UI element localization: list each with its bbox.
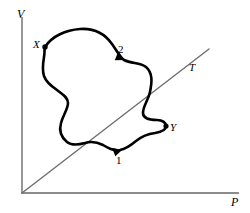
pv-cycle-figure: V P X Y T 1 2: [0, 0, 250, 213]
point-x-label: X: [33, 39, 40, 50]
isotherm-line: [22, 49, 209, 193]
figure-canvas: [0, 0, 250, 213]
point-y-marker: [163, 123, 168, 128]
pressure-axis-label: P: [231, 196, 238, 208]
arrow-step-1-label: 1: [116, 155, 122, 166]
volume-axis-label: V: [17, 8, 24, 20]
arrow-step-2-label: 2: [118, 44, 124, 55]
point-x-marker: [42, 44, 47, 49]
thermodynamic-cycle-curve: [43, 29, 166, 150]
point-y-label: Y: [170, 122, 176, 133]
isotherm-label: T: [189, 62, 195, 73]
